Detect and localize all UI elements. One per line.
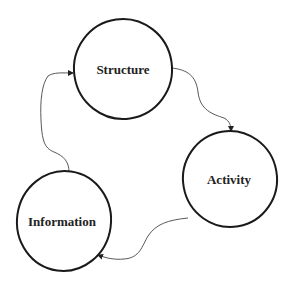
node-activity: Activity <box>175 124 284 235</box>
node-information-label: Information <box>28 214 97 229</box>
cycle-diagram: Structure Activity Information <box>0 0 294 289</box>
arrow-structure-to-activity <box>172 68 231 131</box>
node-information: Information <box>10 165 117 277</box>
node-structure: Structure <box>68 13 179 126</box>
node-structure-label: Structure <box>96 62 149 77</box>
arrow-information-to-structure <box>41 73 73 172</box>
node-activity-label: Activity <box>207 172 252 187</box>
